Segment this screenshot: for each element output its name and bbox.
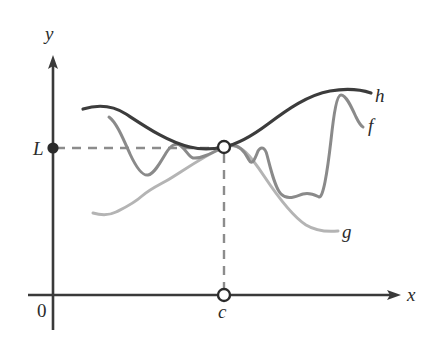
origin-label: 0 [37,301,47,320]
limit-value-dot [47,142,58,153]
limit-value-label: L [33,139,44,158]
curve-h [83,90,371,149]
curve-h-label: h [375,86,385,105]
curve-f [109,95,363,198]
curve-g-label: g [342,222,352,241]
x-value-open-circle [218,289,230,301]
y-axis-label: y [45,24,53,43]
y-axis [48,55,58,330]
x-axis-label: x [407,285,415,304]
curve-f-label: f [368,116,373,135]
graph-canvas [0,0,435,340]
x-axis [28,290,401,300]
x-value-label: c [218,302,226,321]
squeeze-theorem-figure: y x L c 0 h f g [0,0,435,340]
curve-g [93,145,338,231]
limit-point-open-circle [218,141,230,153]
